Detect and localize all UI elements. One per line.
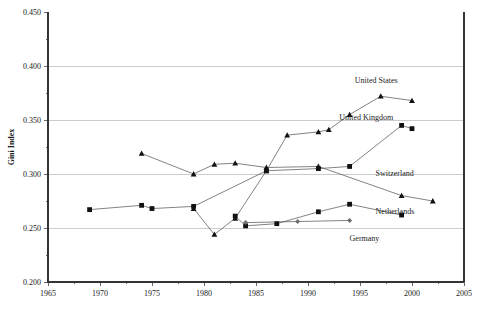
y-tick-label: 0.250	[23, 224, 41, 233]
x-axis-tick-labels: 196519701975198019851990199520002005	[40, 289, 472, 298]
y-tick-label: 0.200	[23, 278, 41, 287]
data-point-netherlands-2	[274, 221, 279, 226]
series-label-switzerland: Switzerland	[376, 169, 414, 178]
x-tick-label: 1995	[352, 289, 368, 298]
series-label-united-states: United States	[355, 76, 398, 85]
chart-background	[0, 0, 483, 312]
x-tick-label: 2000	[404, 289, 420, 298]
data-point-united-kingdom-1	[139, 203, 144, 208]
y-tick-label: 0.350	[23, 116, 41, 125]
x-tick-label: 2005	[456, 289, 472, 298]
data-point-united-kingdom-6	[347, 164, 352, 169]
data-point-united-kingdom-3	[191, 204, 196, 209]
x-tick-label: 1980	[196, 289, 212, 298]
data-point-united-kingdom-7	[399, 123, 404, 128]
data-point-united-kingdom-2	[150, 206, 155, 211]
x-tick-label: 1975	[144, 289, 160, 298]
data-point-netherlands-4	[347, 202, 352, 207]
x-tick-label: 1990	[300, 289, 316, 298]
x-tick-label: 1965	[40, 289, 56, 298]
series-label-united-kingdom: United Kingdom	[339, 113, 394, 122]
y-tick-label: 0.400	[23, 62, 41, 71]
data-point-netherlands-3	[316, 209, 321, 214]
data-point-netherlands-0	[233, 214, 238, 219]
series-label-netherlands: Netherlands	[376, 207, 415, 216]
series-label-germany: Germany	[350, 234, 380, 243]
y-tick-label: 0.450	[23, 8, 41, 17]
y-tick-label: 0.300	[23, 170, 41, 179]
chart-canvas: 0.2000.2500.3000.3500.4000.450 196519701…	[0, 0, 483, 312]
x-tick-label: 1985	[248, 289, 264, 298]
y-axis-title: Gini Index	[7, 129, 16, 166]
data-point-united-kingdom-0	[87, 207, 92, 212]
gini-index-line-chart: 0.2000.2500.3000.3500.4000.450 196519701…	[0, 0, 483, 312]
x-tick-label: 1970	[92, 289, 108, 298]
data-point-united-kingdom-8	[410, 126, 415, 131]
